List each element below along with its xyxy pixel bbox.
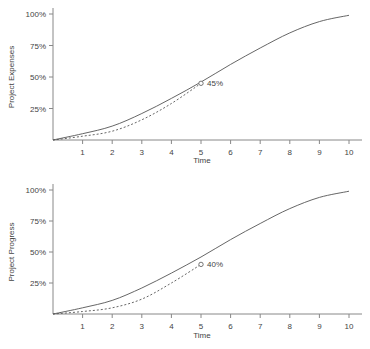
x-tick-label: 10 — [345, 148, 354, 157]
annotation-circle-marker — [199, 262, 203, 266]
x-tick-label: 8 — [288, 322, 293, 331]
chart-panel-1: 25%50%75%100%12345678910TimeProject Expe… — [7, 8, 362, 165]
y-tick-label: 75% — [30, 217, 46, 226]
x-tick-label: 1 — [80, 322, 85, 331]
series-actual-line — [53, 83, 201, 140]
x-tick-label: 5 — [199, 322, 204, 331]
x-tick-label: 6 — [228, 148, 233, 157]
annotation-label: 40% — [207, 260, 223, 269]
charts-container: 25%50%75%100%12345678910TimeProject Expe… — [0, 0, 370, 349]
x-tick-label: 8 — [288, 148, 293, 157]
x-tick-label: 3 — [140, 148, 145, 157]
x-tick-label: 9 — [317, 148, 322, 157]
y-axis-title: Project Progress — [7, 222, 16, 281]
y-tick-label: 100% — [26, 186, 46, 195]
annotation-label: 45% — [207, 79, 223, 88]
x-tick-label: 9 — [317, 322, 322, 331]
y-tick-label: 75% — [30, 42, 46, 51]
y-axis-title: Project Expenses — [7, 46, 16, 108]
series-actual-line — [53, 264, 201, 314]
x-tick-label: 1 — [80, 148, 85, 157]
series-planned-line — [53, 191, 349, 314]
annotation-circle-marker — [199, 81, 203, 85]
x-tick-label: 6 — [228, 322, 233, 331]
y-tick-label: 50% — [30, 73, 46, 82]
x-tick-label: 10 — [345, 322, 354, 331]
y-tick-label: 25% — [30, 279, 46, 288]
x-axis-title: Time — [193, 156, 211, 165]
x-tick-label: 7 — [258, 148, 263, 157]
x-tick-label: 4 — [169, 322, 174, 331]
series-planned-line — [53, 15, 349, 140]
x-tick-label: 4 — [169, 148, 174, 157]
y-tick-label: 50% — [30, 248, 46, 257]
x-tick-label: 2 — [110, 322, 115, 331]
x-tick-label: 3 — [140, 322, 145, 331]
y-tick-label: 25% — [30, 105, 46, 114]
chart-panel-2: 25%50%75%100%12345678910TimeProject Prog… — [7, 184, 362, 340]
x-tick-label: 7 — [258, 322, 263, 331]
x-tick-label: 2 — [110, 148, 115, 157]
x-axis-title: Time — [193, 331, 211, 340]
y-tick-label: 100% — [26, 10, 46, 19]
